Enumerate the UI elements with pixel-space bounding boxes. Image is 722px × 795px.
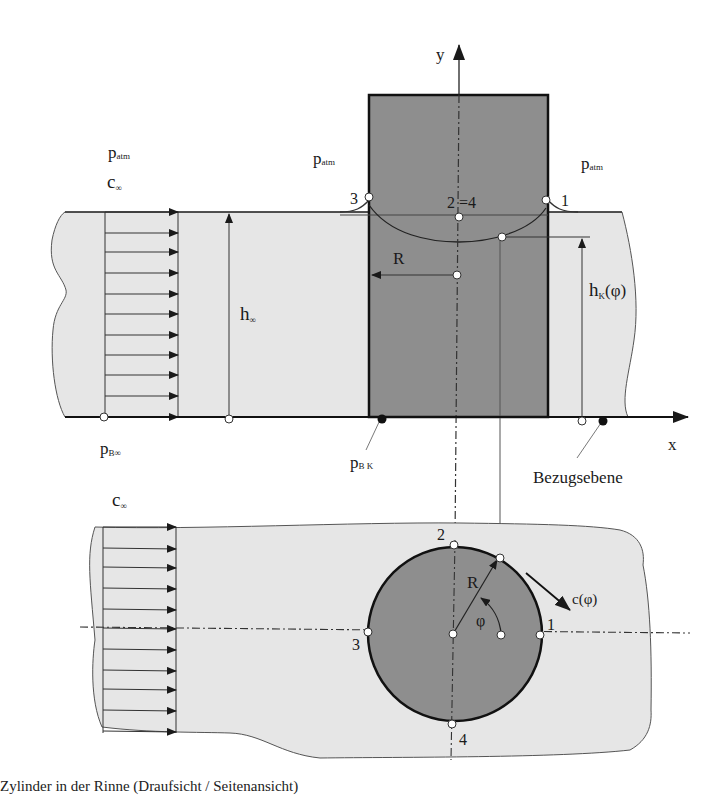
point-2-plan-label: 2 xyxy=(437,526,445,543)
x-axis-label: x xyxy=(668,435,677,454)
point-phi-plan xyxy=(496,554,504,562)
angle-label: φ xyxy=(476,612,485,630)
plan-view: c∞ 2 1 3 4 R φ c(φ) xyxy=(80,489,690,760)
point-reference-plane xyxy=(599,417,608,426)
point-h-inf-base xyxy=(225,415,233,423)
radius-plan-label: R xyxy=(467,573,479,592)
point-2-4-side-label: 2 =4 xyxy=(447,194,476,211)
hk-phi-label: hK(φ) xyxy=(589,279,626,301)
point-1-side xyxy=(542,196,550,204)
point-center-plan xyxy=(449,630,457,638)
p-atm-left-label: patm xyxy=(108,143,130,162)
point-2-plan xyxy=(450,541,458,549)
pbk-leader xyxy=(366,420,380,450)
point-3-plan-label: 3 xyxy=(352,636,360,653)
point-1-plan xyxy=(536,631,544,639)
c-inf-top-label: c∞ xyxy=(107,171,122,193)
p-atm-mid-label: patm xyxy=(313,149,335,168)
water-region-side-right xyxy=(548,212,636,417)
point-center-side xyxy=(453,271,461,279)
point-hk-base xyxy=(578,417,586,425)
reference-plane-leader xyxy=(577,420,603,458)
figure-caption-partial: Zylinder in der Rinne (Draufsicht / Seit… xyxy=(0,778,298,795)
point-2-4-side xyxy=(455,213,463,221)
point-pb-inf xyxy=(100,413,108,421)
point-meniscus-phi xyxy=(498,233,506,241)
point-3-plan xyxy=(364,628,372,636)
y-axis-label: y xyxy=(436,45,445,64)
side-view: y x patm c∞ patm patm 3 1 2 =4 R h∞ hK(φ… xyxy=(51,45,688,556)
velocity-phi-label: c(φ) xyxy=(572,591,597,608)
p-bk-label: pB K xyxy=(350,453,374,472)
c-inf-plan-label: c∞ xyxy=(112,489,127,511)
reference-plane-label: Bezugsebene xyxy=(533,468,623,487)
point-1-side-label: 1 xyxy=(561,192,569,209)
point-4-plan xyxy=(448,720,456,728)
radius-side-label: R xyxy=(393,249,405,268)
point-pbk xyxy=(378,415,387,424)
point-3-side-label: 3 xyxy=(350,190,358,207)
point-3-side xyxy=(365,193,373,201)
point-1-plan-label: 1 xyxy=(547,616,555,633)
point-arc-start xyxy=(497,631,505,639)
p-atm-right-label: patm xyxy=(581,154,603,173)
point-4-plan-label: 4 xyxy=(459,731,467,748)
water-region-side xyxy=(51,212,369,417)
p-b-inf-label: pB∞ xyxy=(100,439,121,458)
